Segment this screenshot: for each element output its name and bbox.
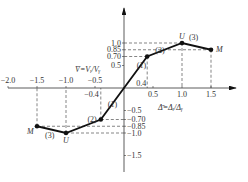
curve-point xyxy=(180,41,185,46)
curve-point xyxy=(64,131,69,136)
segment-label: (3) xyxy=(189,33,199,42)
x-tick-label: −1.0 xyxy=(59,76,74,85)
point-label: M xyxy=(215,45,224,54)
y-tick-label: 0.5 xyxy=(111,61,121,70)
y-tick-label: 0.70 xyxy=(107,52,121,61)
y-tick-label: −1.0 xyxy=(127,129,142,138)
x-extra-label: 0.4 xyxy=(136,79,146,88)
y-tick-label: −0.5 xyxy=(127,106,142,115)
y-tick-label: −1.5 xyxy=(127,151,142,160)
x-tick-label: −1.5 xyxy=(30,76,45,85)
curve-point xyxy=(99,117,104,122)
point-label: M xyxy=(26,127,35,136)
segment-label: (3) xyxy=(45,131,55,140)
curve-point xyxy=(209,47,214,52)
point-label: U xyxy=(179,32,186,41)
x-tick-label: −2.0 xyxy=(1,76,16,85)
segment-label: (2) xyxy=(155,46,165,55)
skeleton-curve-diagram: −2.0−1.5−1.0−0.50.51.01.51.00.850.700.5−… xyxy=(0,0,248,182)
curve-point xyxy=(35,124,40,129)
x-axis-title: Δ̄=Δᵢ/Δᵧ xyxy=(157,103,183,112)
x-tick-label: −0.5 xyxy=(88,76,103,85)
x-tick-label: 1.0 xyxy=(177,90,187,99)
curve-point xyxy=(145,54,150,59)
x-extra-label: −0.4 xyxy=(84,90,99,99)
x-tick-label: 0.5 xyxy=(148,90,158,99)
segment-label: (2) xyxy=(87,115,97,124)
point-label: U xyxy=(63,136,70,145)
segment-label: (1) xyxy=(137,61,147,70)
y-axis-title: V̄=Vᵢ/Vᵧ xyxy=(75,65,101,74)
segment-label: (1) xyxy=(108,100,118,109)
x-tick-label: 1.5 xyxy=(206,90,216,99)
